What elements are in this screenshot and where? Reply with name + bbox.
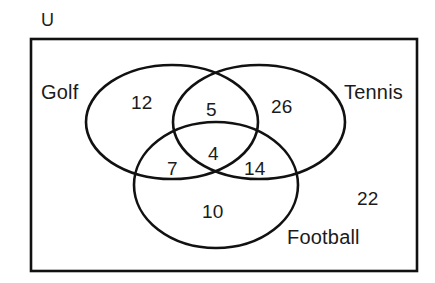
set-circle-football [134,122,298,248]
region-count-football-only: 10 [202,202,224,221]
universe-label: U [41,11,54,29]
venn-diagram-graphic [0,0,435,283]
region-count-golf-football: 7 [167,159,178,178]
region-count-tennis-football: 14 [244,159,266,178]
venn-diagram-canvas: U Golf Tennis Football 12 5 26 7 4 14 10… [0,0,435,283]
region-count-outside: 22 [357,189,379,208]
region-count-golf-only: 12 [131,93,153,112]
set-label-golf: Golf [41,82,78,102]
region-count-golf-tennis: 5 [206,100,217,119]
region-count-tennis-only: 26 [271,97,293,116]
set-label-football: Football [287,227,360,247]
region-count-all-three: 4 [208,144,219,163]
set-label-tennis: Tennis [344,82,403,102]
